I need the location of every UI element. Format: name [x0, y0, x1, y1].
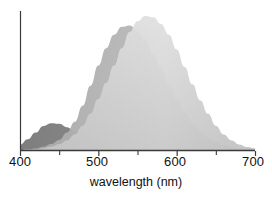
x-tick-label-700: 700	[242, 154, 264, 169]
x-axis-ticks	[21, 151, 256, 156]
x-tick-label-600: 600	[164, 154, 186, 169]
x-tick-label-500: 500	[86, 154, 108, 169]
spectral-sensitivity-chart: 400 500 600 700 wavelength (nm)	[0, 0, 272, 199]
plot-area	[0, 0, 272, 199]
x-tick-label-400: 400	[9, 154, 31, 169]
x-axis-title: wavelength (nm)	[0, 175, 272, 189]
